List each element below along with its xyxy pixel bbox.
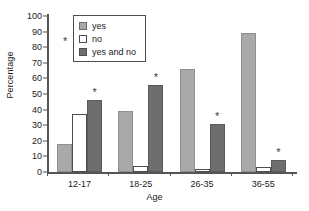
- x-axis-title: Age: [0, 192, 309, 202]
- legend-label-yes: yes: [92, 21, 106, 31]
- y-tick-label: 80: [32, 42, 42, 52]
- bar-yes-26-35: [180, 69, 195, 172]
- y-tick-mark: [43, 47, 47, 48]
- significance-marker-26-35: *: [215, 112, 219, 120]
- bar-yes-36-55: [241, 33, 256, 172]
- y-tick-mark: [43, 78, 47, 79]
- y-tick-label: 90: [32, 27, 42, 37]
- y-tick-label: 10: [32, 151, 42, 161]
- y-tick-label: 100: [27, 11, 42, 21]
- legend-swatch-yes-and-no: [79, 48, 87, 56]
- bar-no-18-25: [133, 166, 148, 172]
- bar-yes-12-17: [57, 144, 72, 172]
- legend-item-yes-and-no: yes and no: [79, 45, 136, 58]
- legend-significance-marker: *: [63, 36, 67, 46]
- x-tick-mark: [170, 172, 171, 176]
- y-tick-label: 50: [32, 89, 42, 99]
- y-tick-mark: [43, 140, 47, 141]
- x-axis-line: [47, 172, 297, 174]
- x-tick-label: 12-17: [68, 179, 91, 189]
- y-tick-label: 70: [32, 58, 42, 68]
- significance-marker-12-17: *: [92, 88, 96, 96]
- bar-no-26-35: [195, 169, 210, 172]
- y-axis-title: Percentage: [5, 35, 15, 115]
- y-tick-label: 30: [32, 120, 42, 130]
- bar-chart: Percentage Age 0102030405060708090100*12…: [0, 0, 309, 211]
- bar-yes-and-no-36-55: [271, 160, 286, 172]
- y-tick-label: 0: [37, 167, 42, 177]
- y-tick-label: 20: [32, 136, 42, 146]
- x-tick-label: 36-55: [252, 179, 275, 189]
- x-tick-mark: [292, 172, 293, 176]
- y-tick-mark: [43, 94, 47, 95]
- legend-label-no: no: [92, 34, 102, 44]
- y-tick-mark: [43, 31, 47, 32]
- significance-marker-36-55: *: [276, 148, 280, 156]
- bar-no-12-17: [72, 114, 87, 172]
- bar-yes-and-no-26-35: [210, 124, 225, 172]
- x-tick-label: 26-35: [191, 179, 214, 189]
- y-tick-mark: [43, 16, 47, 17]
- legend-label-yes-and-no: yes and no: [92, 47, 136, 57]
- chart-legend: yes no yes and no: [73, 15, 146, 62]
- bar-yes-and-no-12-17: [87, 100, 102, 172]
- y-tick-label: 40: [32, 105, 42, 115]
- significance-marker-18-25: *: [154, 73, 158, 81]
- legend-swatch-no: [79, 35, 87, 43]
- x-tick-mark: [108, 172, 109, 176]
- x-tick-label: 18-25: [129, 179, 152, 189]
- y-tick-mark: [43, 62, 47, 63]
- legend-item-yes: yes: [79, 19, 136, 32]
- x-tick-mark: [231, 172, 232, 176]
- y-tick-mark: [43, 109, 47, 110]
- legend-swatch-yes: [79, 22, 87, 30]
- bar-yes-18-25: [118, 111, 133, 172]
- x-tick-mark: [47, 172, 48, 176]
- bar-no-36-55: [256, 167, 271, 172]
- y-tick-label: 60: [32, 73, 42, 83]
- y-tick-mark: [43, 156, 47, 157]
- bar-yes-and-no-18-25: [148, 85, 163, 172]
- legend-item-no: no: [79, 32, 136, 45]
- y-tick-mark: [43, 125, 47, 126]
